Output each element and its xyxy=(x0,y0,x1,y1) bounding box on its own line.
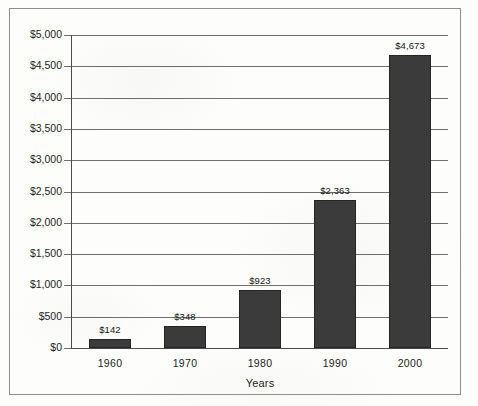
x-axis-line xyxy=(72,348,448,349)
x-axis-tick-label-1990: 1990 xyxy=(300,357,370,369)
y-axis-line xyxy=(71,35,72,349)
x-axis-tick-label-2000: 2000 xyxy=(375,357,445,369)
bar-1970[interactable] xyxy=(164,326,206,348)
bar-2000[interactable] xyxy=(389,55,431,348)
x-axis-title: Years xyxy=(72,377,448,389)
y-axis-tick-label: $2,500 xyxy=(0,185,62,197)
y-axis-tick-label: $0 xyxy=(0,341,62,353)
y-axis-tick-label: $4,000 xyxy=(0,91,62,103)
y-axis-tick-label: $3,000 xyxy=(0,153,62,165)
bar-1960[interactable] xyxy=(89,339,131,348)
bar-1980[interactable] xyxy=(239,290,281,348)
bar-value-label-1960: $142 xyxy=(70,324,150,335)
frame-border-top xyxy=(9,8,461,9)
frame-border-bottom xyxy=(9,394,461,395)
y-axis-tick-label: $3,500 xyxy=(0,122,62,134)
y-axis-tick-label: $500 xyxy=(0,310,62,322)
y-axis-tick-label: $1,500 xyxy=(0,247,62,259)
x-axis-tick-label-1960: 1960 xyxy=(75,357,145,369)
y-axis-tick-label: $2,000 xyxy=(0,216,62,228)
y-axis-tick-label: $4,500 xyxy=(0,59,62,71)
chart-page: $0$500$1,000$1,500$2,000$2,500$3,000$3,5… xyxy=(0,0,478,406)
gridline xyxy=(72,35,448,36)
bar-value-label-2000: $4,673 xyxy=(370,40,450,51)
y-axis-tick-label: $1,000 xyxy=(0,278,62,290)
bar-value-label-1970: $348 xyxy=(145,311,225,322)
x-axis-tick-label-1980: 1980 xyxy=(225,357,295,369)
y-axis-tick-label: $5,000 xyxy=(0,28,62,40)
bar-1990[interactable] xyxy=(314,200,356,348)
bar-value-label-1990: $2,363 xyxy=(295,185,375,196)
x-axis-tick-label-1970: 1970 xyxy=(150,357,220,369)
frame-border-right xyxy=(460,8,461,395)
bar-value-label-1980: $923 xyxy=(220,275,300,286)
